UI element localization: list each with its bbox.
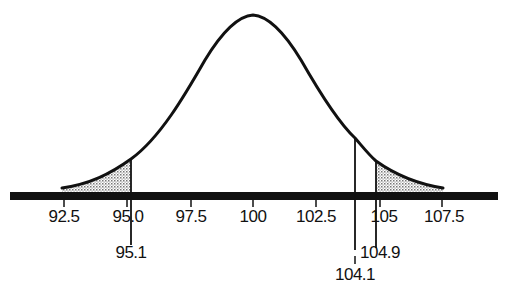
normal-curve: [62, 15, 443, 188]
tick-label-105: 105: [371, 208, 398, 225]
normal-distribution-diagram: [0, 0, 508, 296]
critical-label-104-9: 104.9: [360, 244, 400, 261]
x-axis-bar: [10, 192, 498, 200]
tick-label-100: 100: [240, 208, 267, 225]
tick-label-97-5: 97.5: [175, 208, 206, 225]
tick-label-92-5: 92.5: [48, 208, 79, 225]
tick-label-102-5: 102.5: [296, 208, 336, 225]
x-axis-ticks: [64, 200, 442, 207]
critical-label-95-1: 95.1: [115, 244, 146, 261]
tick-label-107-5: 107.5: [424, 208, 464, 225]
critical-label-104-1: 104.1: [335, 266, 375, 283]
tick-label-95-0: 95.0: [112, 208, 143, 225]
